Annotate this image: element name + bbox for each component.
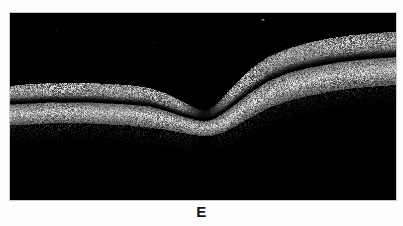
oct-scan-image	[10, 13, 396, 200]
oct-figure-panel: E	[0, 0, 403, 226]
oct-scan-frame	[9, 12, 397, 201]
panel-letter-label: E	[0, 203, 403, 221]
